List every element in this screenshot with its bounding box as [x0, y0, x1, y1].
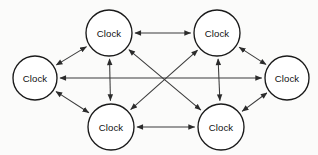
- node-label-top-right: Clock: [205, 28, 230, 39]
- edge-left-to-bottom-left: [56, 92, 89, 113]
- node-left: Clock: [13, 56, 57, 100]
- node-bottom-right: Clock: [198, 104, 244, 150]
- node-bottom-left: Clock: [88, 104, 134, 150]
- node-label-bottom-right: Clock: [209, 122, 234, 133]
- edge-right-to-top-right: [239, 47, 266, 64]
- node-label-bottom-left: Clock: [99, 122, 124, 133]
- edge-left-to-top-left: [57, 47, 87, 65]
- edge-top-right-to-bottom-right: [218, 59, 220, 101]
- node-label-right: Clock: [275, 73, 300, 84]
- clock-network-diagram: ClockClockClockClockClockClock: [0, 0, 318, 155]
- node-layer: ClockClockClockClockClockClock: [13, 10, 309, 150]
- edge-top-left-to-bottom-left: [110, 59, 111, 101]
- node-label-left: Clock: [23, 73, 48, 84]
- node-right: Clock: [265, 56, 309, 100]
- edge-right-to-bottom-right: [242, 93, 267, 111]
- node-top-right: Clock: [194, 10, 240, 56]
- node-label-top-left: Clock: [97, 28, 122, 39]
- diagram-canvas: ClockClockClockClockClockClock: [0, 0, 318, 155]
- node-top-left: Clock: [86, 10, 132, 56]
